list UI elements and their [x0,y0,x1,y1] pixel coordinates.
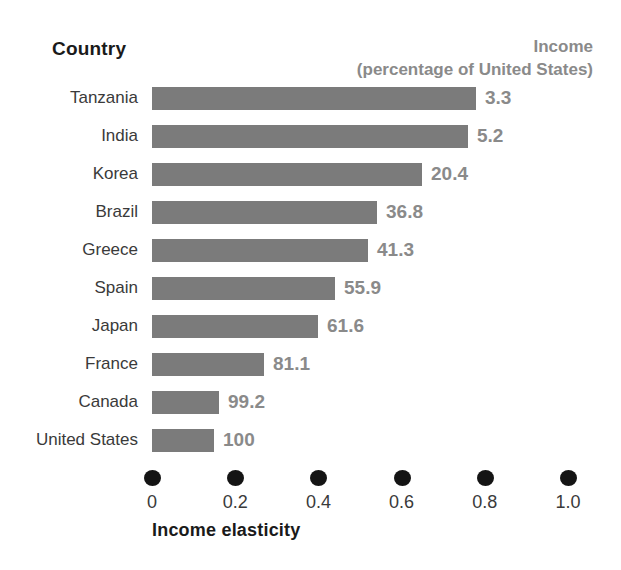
bar-value-label: 41.3 [377,238,414,262]
table-row: France81.1 [0,352,621,390]
axis-tick-label: 0.8 [455,492,515,513]
bar-value-label: 61.6 [327,314,364,338]
row-label-country: Korea [0,162,138,186]
table-row: Japan61.6 [0,314,621,352]
row-label-country: Canada [0,390,138,414]
bar [152,277,335,300]
axis-dot-icon [477,470,494,486]
row-label-country: Brazil [0,200,138,224]
row-label-country: Spain [0,276,138,300]
table-row: Canada99.2 [0,390,621,428]
bar-value-label: 5.2 [477,124,503,148]
axis-dot-icon [227,470,244,486]
bar-value-label: 99.2 [228,390,265,414]
row-label-country: Tanzania [0,86,138,110]
axis-tick-label: 0 [122,492,182,513]
bar-value-label: 36.8 [386,200,423,224]
axis-tick-label: 0.4 [288,492,348,513]
axis-tick-label: 1.0 [538,492,598,513]
bar [152,391,219,414]
row-label-country: United States [0,428,138,452]
bar [152,87,476,110]
axis-tick-label: 0.6 [372,492,432,513]
axis-tick-label: 0.2 [205,492,265,513]
row-label-country: Japan [0,314,138,338]
row-label-country: Greece [0,238,138,262]
table-row: Korea20.4 [0,162,621,200]
axis-dot-icon [144,470,161,486]
bar-value-label: 20.4 [431,162,468,186]
bar [152,163,422,186]
axis-dot-icon [310,470,327,486]
table-row: United States100 [0,428,621,466]
bar-value-label: 81.1 [273,352,310,376]
x-axis: 00.20.40.60.81.0 [0,470,621,530]
bar [152,315,318,338]
bar [152,239,368,262]
table-row: Brazil36.8 [0,200,621,238]
bar [152,429,214,452]
table-row: Spain55.9 [0,276,621,314]
table-row: Greece41.3 [0,238,621,276]
bar [152,201,377,224]
bar-value-label: 3.3 [485,86,511,110]
x-axis-title: Income elasticity [152,520,300,541]
axis-dot-icon [394,470,411,486]
income-elasticity-chart: Country Income (percentage of United Sta… [0,0,621,570]
axis-dot-icon [560,470,577,486]
row-label-country: India [0,124,138,148]
bar [152,125,468,148]
table-row: India5.2 [0,124,621,162]
row-label-country: France [0,352,138,376]
bar-value-label: 55.9 [344,276,381,300]
bar-value-label: 100 [223,428,255,452]
bar [152,353,264,376]
table-row: Tanzania3.3 [0,86,621,124]
